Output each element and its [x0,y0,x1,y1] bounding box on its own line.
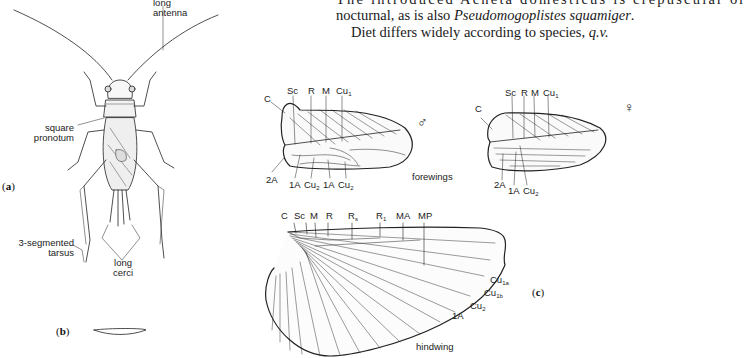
panel-label-a: (a) [2,180,15,192]
female-vein-2A: 2A [494,180,506,190]
hind-vein-1A: 1A [452,311,464,321]
label-antenna: antenna [153,8,187,18]
male-forewing-drawing [271,96,412,178]
label-cerci: cerci [113,268,133,278]
female-sex-symbol: ♀ [624,102,635,112]
female-forewing-drawing [481,96,606,185]
label-long-antenna: long antenna [153,0,187,18]
forewings-caption: forewings [412,172,453,182]
hind-vein-R: R [326,211,333,221]
hind-vein-Cu1b: Cu1b [484,288,503,301]
hindwing-caption: hindwing [416,342,454,352]
male-vein-1A-2: 1A [323,180,335,190]
panel-label-c: (c) [532,286,544,298]
female-vein-Cu1: Cu1 [543,88,559,101]
male-vein-C: C [264,94,271,104]
male-vein-Cu2-2: Cu2 [338,180,354,193]
egg-outline [94,329,146,335]
hind-vein-MP: MP [418,211,432,221]
male-sex-symbol: ♂ [417,117,428,127]
label-tarsus: tarsus [18,248,74,258]
female-vein-M: M [531,88,539,98]
hind-vein-R1: R1 [376,211,386,224]
female-vein-R: R [521,88,528,98]
hind-vein-M: M [310,211,318,221]
male-vein-Cu1: Cu1 [336,86,352,99]
female-vein-Cu2: Cu2 [523,186,539,199]
hind-vein-Cu2: Cu2 [470,301,486,314]
female-vein-1A: 1A [508,186,520,196]
panel-label-b: (b) [56,325,69,337]
label-3-segmented-tarsus: 3-segmented tarsus [18,238,74,258]
male-vein-M: M [322,86,330,96]
hind-vein-Rs: Rs [348,211,358,224]
female-vein-C: C [475,104,482,114]
male-vein-Sc: Sc [287,86,298,96]
female-vein-Sc: Sc [505,88,516,98]
label-square-pronotum: square pronotum [28,123,74,143]
hindwing-drawing [266,223,506,356]
male-vein-1A: 1A [289,180,301,190]
male-vein-Cu2: Cu2 [304,180,320,193]
hind-vein-C: C [281,211,288,221]
label-pronotum: pronotum [28,133,74,143]
male-vein-2A: 2A [266,175,278,185]
hind-vein-Sc: Sc [294,211,305,221]
male-vein-R: R [308,86,315,96]
label-long-cerci: long cerci [113,258,133,278]
hind-vein-MA: MA [396,211,410,221]
